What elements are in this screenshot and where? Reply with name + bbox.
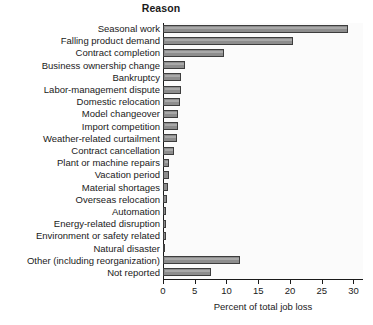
x-tick-label: 20 (277, 285, 303, 296)
bar-highlight (165, 161, 168, 163)
chart-title: Reason (0, 2, 322, 14)
bar-highlight (165, 100, 179, 102)
x-tick-mark (163, 280, 164, 284)
x-tick-mark (226, 280, 227, 284)
x-tick-mark (353, 280, 354, 284)
category-label: Vacation period (0, 169, 160, 180)
bar (163, 244, 165, 252)
bar-chart-figure: Reason Seasonal workFalling product dema… (0, 0, 373, 325)
category-label: Weather-related curtailment (0, 133, 160, 144)
bar (163, 49, 224, 57)
x-tick-label: 15 (245, 285, 271, 296)
x-tick-label: 30 (340, 285, 366, 296)
bar (163, 37, 293, 45)
category-label: Contract completion (0, 47, 160, 58)
bar (163, 232, 166, 240)
bar (163, 134, 177, 142)
bar-highlight (165, 136, 176, 138)
x-tick-mark (290, 280, 291, 284)
bar (163, 73, 181, 81)
category-label: Labor-management dispute (0, 84, 160, 95)
bar (163, 159, 169, 167)
bar (163, 171, 169, 179)
x-tick-label: 5 (182, 285, 208, 296)
category-label: Import competition (0, 121, 160, 132)
bar-highlight (165, 63, 184, 65)
x-tick-mark (258, 280, 259, 284)
x-tick-mark (322, 280, 323, 284)
x-tick-label: 0 (150, 285, 176, 296)
category-label: Plant or machine repairs (0, 157, 160, 168)
bar-highlight (165, 258, 239, 260)
x-tick-label: 25 (309, 285, 335, 296)
bar (163, 86, 181, 94)
category-label: Overseas relocation (0, 194, 160, 205)
bar (163, 25, 348, 33)
category-label: Business ownership change (0, 60, 160, 71)
category-label: Domestic relocation (0, 96, 160, 107)
x-axis-line (163, 279, 363, 280)
category-label: Material shortages (0, 182, 160, 193)
bar-highlight (165, 88, 180, 90)
bar-highlight (165, 270, 210, 272)
category-label: Natural disaster (0, 243, 160, 254)
bar (163, 220, 166, 228)
category-label: Automation (0, 206, 160, 217)
category-label: Environment or safety related (0, 230, 160, 241)
category-label: Falling product demand (0, 35, 160, 46)
category-label: Contract cancellation (0, 145, 160, 156)
bar-highlight (165, 149, 173, 151)
x-tick-label: 10 (213, 285, 239, 296)
category-label: Bankruptcy (0, 72, 160, 83)
bar-highlight (165, 112, 177, 114)
bar (163, 110, 178, 118)
bar-highlight (165, 39, 292, 41)
y-axis-tick-labels: Seasonal workFalling product demandContr… (0, 23, 160, 279)
bar (163, 147, 174, 155)
category-label: Seasonal work (0, 23, 160, 34)
bar-highlight (165, 124, 177, 126)
bar-highlight (165, 51, 223, 53)
bar (163, 207, 166, 215)
bar (163, 195, 167, 203)
bar-highlight (165, 27, 347, 29)
bars-layer (163, 23, 363, 279)
bar (163, 122, 178, 130)
category-label: Other (including reorganization) (0, 255, 160, 266)
bar (163, 256, 240, 264)
category-label: Model changeover (0, 108, 160, 119)
category-label: Energy-related disruption (0, 218, 160, 229)
bar-highlight (165, 75, 180, 77)
bar (163, 61, 185, 69)
bar (163, 268, 211, 276)
category-label: Not reported (0, 267, 160, 278)
x-axis-label: Percent of total job loss (163, 301, 363, 312)
bar (163, 183, 168, 191)
x-tick-mark (195, 280, 196, 284)
bar (163, 98, 180, 106)
